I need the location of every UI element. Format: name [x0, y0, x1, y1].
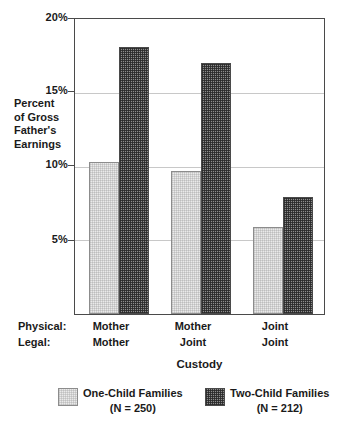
- legend-label-one-child-name: One-Child Families: [83, 387, 183, 399]
- y-tick-label-15: 15%: [26, 84, 68, 96]
- plot-area: [74, 18, 325, 315]
- gridline-15: [75, 93, 324, 94]
- row-header-legal: Legal:: [18, 336, 50, 348]
- legend-label-two-child-name: Two-Child Families: [230, 387, 329, 399]
- bar-two-child-mother-joint: [201, 63, 231, 314]
- bar-one-child-mother-mother: [89, 162, 119, 314]
- y-tick-label-20: 20%: [26, 11, 68, 23]
- category-physical-3: Joint: [238, 320, 312, 332]
- y-axis-title-line-3: Father's: [14, 124, 74, 138]
- y-axis-title-line-1: Percent: [14, 97, 74, 111]
- bar-two-child-joint-joint: [283, 197, 313, 314]
- legend-label-one-child-n: (N = 250): [83, 401, 183, 416]
- category-physical-1: Mother: [74, 320, 148, 332]
- legend-label-two-child: Two-Child Families (N = 212): [230, 386, 329, 416]
- bar-one-child-joint-joint: [253, 227, 283, 314]
- chart-legend: One-Child Families (N = 250) Two-Child F…: [0, 386, 353, 428]
- x-axis-title: Custody: [74, 358, 325, 370]
- y-tick-label-5: 5%: [26, 233, 68, 245]
- bar-one-child-mother-joint: [171, 171, 201, 314]
- y-axis-title-line-4: Earnings: [14, 138, 74, 152]
- y-tick-label-10: 10%: [26, 158, 68, 170]
- legend-swatch-two-child: [205, 388, 225, 406]
- category-physical-2: Mother: [156, 320, 230, 332]
- y-axis-title: Percent of Gross Father's Earnings: [14, 97, 74, 151]
- row-header-physical: Physical:: [18, 320, 66, 332]
- category-legal-2: Joint: [156, 336, 230, 348]
- y-axis-title-line-2: of Gross: [14, 111, 74, 125]
- bar-two-child-mother-mother: [119, 47, 149, 314]
- legend-swatch-one-child: [58, 388, 78, 406]
- chart-root: Percent of Gross Father's Earnings 20% 1…: [0, 0, 353, 429]
- legend-label-one-child: One-Child Families (N = 250): [83, 386, 183, 416]
- category-legal-1: Mother: [74, 336, 148, 348]
- category-legal-3: Joint: [238, 336, 312, 348]
- legend-label-two-child-n: (N = 212): [230, 401, 329, 416]
